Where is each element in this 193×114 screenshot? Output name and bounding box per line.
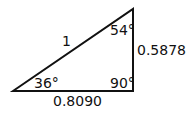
triangle-diagram: 1 54° 0.5878 36° 90° 0.8090 <box>0 0 193 114</box>
hypotenuse-label: 1 <box>62 33 71 49</box>
vertical-side-label: 0.5878 <box>137 42 186 58</box>
horizontal-side-label: 0.8090 <box>53 93 102 109</box>
top-angle-label: 54° <box>110 22 135 38</box>
left-angle-label: 36° <box>34 75 59 91</box>
right-angle-label: 90° <box>110 75 135 91</box>
